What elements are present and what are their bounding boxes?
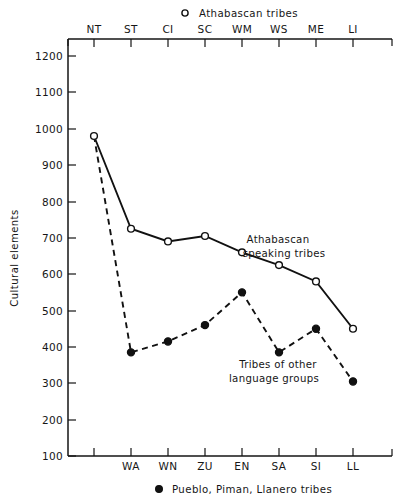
data-point-other-language bbox=[275, 349, 282, 356]
data-point-athabascan bbox=[91, 133, 98, 140]
y-axis-title: Cultural elements bbox=[9, 209, 20, 307]
data-point-athabascan bbox=[350, 325, 357, 332]
top-tick-label-st: ST bbox=[124, 23, 138, 35]
bottom-tick-label-wn: WN bbox=[158, 460, 177, 472]
y-tick-label-200: 200 bbox=[42, 414, 63, 426]
y-tick-label-400: 400 bbox=[42, 341, 63, 353]
data-point-other-language bbox=[201, 321, 208, 328]
y-tick-label-300: 300 bbox=[42, 377, 63, 389]
filled-circle-marker-icon bbox=[156, 486, 163, 493]
data-point-athabascan bbox=[276, 262, 283, 269]
top-tick-label-li: LI bbox=[348, 23, 358, 35]
legend-bottom-label: Pueblo, Piman, Llanero tribes bbox=[172, 484, 332, 495]
top-tick-label-nt: NT bbox=[86, 23, 101, 35]
data-point-other-language bbox=[164, 338, 171, 345]
top-tick-label-ws: WS bbox=[270, 23, 288, 35]
y-tick-label-700: 700 bbox=[42, 232, 63, 244]
legend-top: Athabascan tribes bbox=[182, 8, 298, 19]
top-tick-label-wm: WM bbox=[232, 23, 252, 35]
annotation-athabascan: Athabascan speaking tribes bbox=[243, 234, 326, 259]
bottom-tick-label-wa: WA bbox=[122, 460, 140, 472]
data-point-athabascan bbox=[128, 225, 135, 232]
y-axis: 1200 1100 1000 900 800 700 600 500 400 3… bbox=[9, 39, 76, 462]
bottom-tick-label-zu: ZU bbox=[197, 460, 213, 472]
data-point-athabascan bbox=[202, 233, 209, 240]
data-point-other-language bbox=[127, 349, 134, 356]
data-point-athabascan bbox=[313, 278, 320, 285]
y-tick-label-500: 500 bbox=[42, 305, 63, 317]
y-tick-label-900: 900 bbox=[42, 159, 63, 171]
bottom-tick-label-sa: SA bbox=[272, 460, 287, 472]
bottom-tick-label-en: EN bbox=[234, 460, 249, 472]
bottom-tick-label-si: SI bbox=[311, 460, 322, 472]
bottom-tick-label-ll: LL bbox=[347, 460, 360, 472]
data-point-other-language bbox=[238, 289, 245, 296]
annotation-athabascan-line1: Athabascan bbox=[247, 234, 310, 245]
annotation-other-line2: language groups bbox=[229, 373, 319, 384]
cultural-elements-line-chart: Athabascan tribes NT ST CI SC WM WS ME L… bbox=[0, 0, 405, 501]
y-tick-label-100: 100 bbox=[42, 450, 63, 462]
bottom-axis: WA WN ZU EN SA SI LL bbox=[68, 448, 392, 472]
series-markers-athabascan bbox=[91, 133, 357, 333]
data-point-other-language bbox=[349, 378, 356, 385]
legend-bottom: Pueblo, Piman, Llanero tribes bbox=[156, 484, 333, 495]
annotation-other-line1: Tribes of other bbox=[238, 359, 317, 370]
top-tick-label-sc: SC bbox=[198, 23, 213, 35]
y-tick-label-800: 800 bbox=[42, 196, 63, 208]
y-tick-label-1100: 1100 bbox=[35, 86, 63, 98]
legend-top-label: Athabascan tribes bbox=[199, 8, 298, 19]
y-tick-label-1200: 1200 bbox=[35, 50, 63, 62]
data-point-athabascan bbox=[165, 238, 172, 245]
y-tick-label-1000: 1000 bbox=[35, 123, 63, 135]
data-point-other-language bbox=[312, 325, 319, 332]
annotation-athabascan-line2: speaking tribes bbox=[243, 248, 326, 259]
y-tick-label-600: 600 bbox=[42, 268, 63, 280]
top-tick-label-ci: CI bbox=[162, 23, 173, 35]
annotation-other-language-groups: Tribes of other language groups bbox=[229, 359, 319, 384]
top-axis: NT ST CI SC WM WS ME LI bbox=[68, 23, 392, 47]
open-circle-marker-icon bbox=[182, 10, 188, 16]
chart-figure: Athabascan tribes NT ST CI SC WM WS ME L… bbox=[0, 0, 405, 501]
top-tick-label-me: ME bbox=[308, 23, 325, 35]
